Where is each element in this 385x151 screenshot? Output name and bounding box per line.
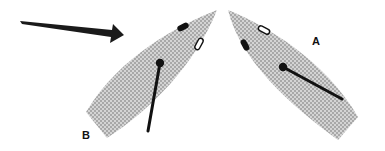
boat-b-label: B [82,130,90,141]
boat-a-hull [228,10,358,140]
boat-a-mast-icon [279,63,287,71]
boat-a [228,10,358,140]
boat-b [86,10,217,138]
wind-arrow-icon [20,21,124,43]
diagram-canvas: A B [0,0,385,151]
boat-a-label: A [312,36,320,47]
boat-b-mast-icon [156,59,164,67]
